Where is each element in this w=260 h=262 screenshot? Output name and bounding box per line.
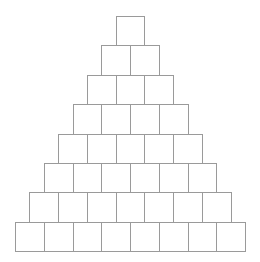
pyramid-cell [130,222,160,252]
pyramid-cell [159,163,189,193]
pyramid-cell [202,192,232,222]
pyramid-cell [44,222,74,252]
pyramid-cell [116,134,146,164]
pyramid-cell [173,192,203,222]
pyramid-cell [144,134,174,164]
pyramid-cell [116,192,146,222]
pyramid-cell [73,222,103,252]
pyramid-cell [44,163,74,193]
pyramid-cell [116,16,146,46]
pyramid-cell [130,104,160,134]
pyramid-cell [87,75,117,105]
pyramid-cell [58,134,88,164]
pyramid-cell [130,163,160,193]
pyramid-cell [73,104,103,134]
pyramid-cell [130,45,160,75]
pyramid-cell [87,134,117,164]
pyramid-cell [188,163,218,193]
pyramid-cell [58,192,88,222]
pyramid-cell [101,104,131,134]
pyramid-cell [101,45,131,75]
pyramid-cell [216,222,246,252]
pyramid-cell [15,222,45,252]
pyramid-cell [173,134,203,164]
pyramid-cell [188,222,218,252]
pyramid-cell [101,222,131,252]
block-pyramid [0,0,260,262]
pyramid-cell [101,163,131,193]
pyramid-cell [87,192,117,222]
pyramid-cell [144,75,174,105]
pyramid-cell [73,163,103,193]
pyramid-cell [29,192,59,222]
pyramid-cell [159,222,189,252]
pyramid-cell [159,104,189,134]
pyramid-cell [116,75,146,105]
pyramid-cell [144,192,174,222]
